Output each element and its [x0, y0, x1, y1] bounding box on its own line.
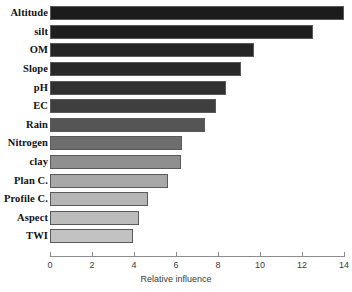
bar-category-label: TWI [26, 231, 48, 242]
bar-category-label: Slope [23, 64, 48, 75]
x-axis-tick-label: 12 [297, 260, 307, 270]
bar-row: OM [0, 41, 352, 60]
bar-row: Profile C. [0, 190, 352, 209]
bar-row: Nitrogen [0, 134, 352, 153]
bar-row: TWI [0, 227, 352, 246]
bar-row: Aspect [0, 209, 352, 228]
bar [50, 192, 148, 206]
x-axis-tick-label: 0 [47, 260, 52, 270]
bar-category-label: pH [34, 82, 48, 93]
x-axis-tick-label: 8 [215, 260, 220, 270]
bar [50, 155, 181, 169]
bar-category-label: EC [33, 101, 48, 112]
bar-category-label: OM [30, 45, 48, 56]
x-axis-tick [92, 252, 93, 257]
x-axis-title: Relative influence [0, 274, 352, 284]
bar-row: Altitude [0, 4, 352, 23]
bar-category-label: Altitude [10, 8, 48, 19]
x-axis-line [50, 256, 344, 257]
x-axis-tick-label: 10 [255, 260, 265, 270]
bar [50, 25, 313, 39]
x-axis-tick [50, 252, 51, 257]
bar [50, 81, 226, 95]
bar-category-label: Profile C. [4, 194, 48, 205]
bar [50, 174, 168, 188]
bar [50, 43, 254, 57]
bar [50, 211, 139, 225]
relative-influence-bar-chart: AltitudesiltOMSlopepHECRainNitrogenclayP… [0, 0, 352, 292]
bar-row: clay [0, 153, 352, 172]
x-axis-tick-label: 6 [173, 260, 178, 270]
x-axis-tick [134, 252, 135, 257]
bar [50, 6, 344, 20]
bar [50, 62, 241, 76]
x-axis-tick-label: 4 [131, 260, 136, 270]
bar [50, 229, 133, 243]
bar [50, 118, 205, 132]
bar-category-label: Plan C. [14, 175, 48, 186]
x-axis-tick [176, 252, 177, 257]
x-axis-tick [218, 252, 219, 257]
bar [50, 136, 182, 150]
bar-category-label: silt [34, 27, 48, 38]
bar-row: EC [0, 97, 352, 116]
bar-category-label: Nitrogen [8, 138, 48, 149]
bar-category-label: Aspect [17, 213, 48, 224]
x-axis-tick-label: 2 [89, 260, 94, 270]
x-axis-tick-label: 14 [339, 260, 349, 270]
bar-row: Slope [0, 60, 352, 79]
bar-category-label: clay [30, 157, 48, 168]
bar-row: silt [0, 23, 352, 42]
x-axis-tick [344, 252, 345, 257]
x-axis-tick [302, 252, 303, 257]
bar [50, 99, 216, 113]
bar-row: Plan C. [0, 171, 352, 190]
bar-row: pH [0, 78, 352, 97]
bar-category-label: Rain [26, 120, 48, 131]
bar-row: Rain [0, 116, 352, 135]
x-axis: Relative influence 02468101214 [0, 256, 352, 292]
x-axis-tick [260, 252, 261, 257]
plot-area: AltitudesiltOMSlopepHECRainNitrogenclayP… [0, 0, 352, 256]
